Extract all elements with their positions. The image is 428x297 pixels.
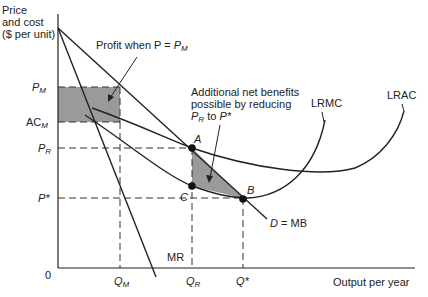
tick-pstar: P*: [38, 192, 50, 204]
point-b: [239, 195, 247, 203]
tick-qstar: Q*: [236, 275, 249, 287]
tick-acm: ACM: [26, 116, 48, 132]
demand-label: D = MB: [270, 217, 307, 229]
profit-area: [58, 87, 120, 122]
lrmc-leader: [322, 112, 324, 122]
tick-qr: QR: [186, 275, 200, 291]
economics-diagram: [0, 0, 428, 297]
y-axis-label: Price and cost ($ per unit): [2, 4, 55, 40]
point-c: [188, 182, 196, 190]
lrmc-label: LRMC: [311, 97, 342, 109]
point-b-label: B: [247, 184, 254, 196]
net-benefit-annotation: Additional net benefits possible by redu…: [191, 86, 299, 126]
point-a-label: A: [194, 133, 201, 145]
tick-pr: PR: [38, 142, 51, 158]
net-benefit-arrow: [210, 125, 220, 178]
x-axis-label: Output per year: [333, 276, 409, 288]
lrac-leader: [402, 104, 404, 111]
mr-label: MR: [167, 251, 184, 263]
tick-qm: QM: [114, 275, 129, 291]
origin-label: 0: [45, 269, 51, 281]
profit-annotation: Profit when P = PM: [96, 39, 188, 55]
profit-arrow: [110, 57, 137, 98]
point-c-label: C: [180, 191, 188, 203]
tick-pm: PM: [32, 81, 46, 97]
mr-curve: [58, 28, 156, 277]
lrac-label: LRAC: [387, 89, 416, 101]
point-a: [188, 144, 196, 152]
